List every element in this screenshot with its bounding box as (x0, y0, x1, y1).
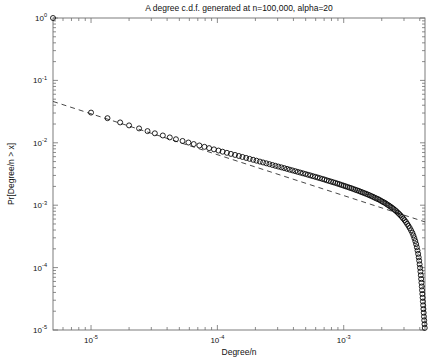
data-point-marker (118, 120, 123, 125)
x-tick-label: 10-4 (210, 334, 224, 345)
data-point-marker (261, 160, 266, 165)
x-axis-label: Degree/n (222, 347, 257, 357)
y-tick-labels: 10010-110-210-310-410-5 (33, 12, 47, 335)
x-tick-label: 10-5 (84, 334, 98, 345)
data-point-marker (207, 146, 212, 151)
x-tick-label: 10-3 (337, 334, 351, 345)
data-point-marker (202, 144, 207, 149)
data-point-marker (127, 123, 132, 128)
y-axis-label: Pr[Degree/n > x] (6, 143, 16, 205)
y-tick-label: 100 (35, 12, 47, 23)
data-point-marker (247, 156, 252, 161)
chart-canvas: A degree c.d.f. generated at n=100,000, … (0, 0, 439, 361)
data-point-marker (186, 140, 191, 145)
chart-title: A degree c.d.f. generated at n=100,000, … (145, 3, 333, 13)
figure-container: A degree c.d.f. generated at n=100,000, … (0, 0, 439, 361)
data-point-marker (254, 158, 259, 163)
y-tick-label: 10-1 (33, 75, 47, 86)
y-tick-label: 10-5 (33, 324, 47, 335)
data-point-marker (257, 159, 262, 164)
axis-ticks (53, 18, 425, 330)
data-point-marker (145, 129, 150, 134)
power-law-fit-line (53, 101, 425, 221)
data-point-marker (89, 110, 94, 115)
data-point-marker (137, 126, 142, 131)
y-tick-label: 10-2 (33, 137, 47, 148)
data-point-marker (160, 133, 165, 138)
data-point-marker (197, 143, 202, 148)
data-point-marker (152, 131, 157, 136)
data-point-marker (251, 157, 256, 162)
x-tick-labels: 10-510-410-3 (84, 334, 351, 345)
data-point-marker (267, 162, 272, 167)
data-point-marker (167, 135, 172, 140)
plot-frame (53, 18, 425, 330)
data-point-marker (191, 142, 196, 147)
data-series-markers (51, 16, 428, 331)
y-tick-label: 10-4 (33, 262, 47, 273)
data-point-marker (398, 213, 403, 218)
y-tick-label: 10-3 (33, 200, 47, 211)
data-point-marker (180, 138, 185, 143)
